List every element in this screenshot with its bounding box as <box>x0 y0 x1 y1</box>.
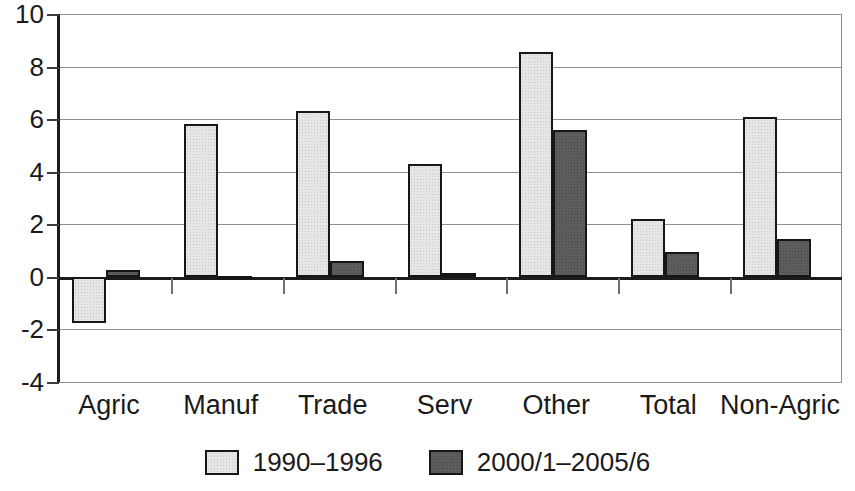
y-axis-tick <box>47 277 59 279</box>
y-axis-spine <box>57 14 60 382</box>
gridline <box>59 14 842 15</box>
zero-line <box>59 277 842 280</box>
gridline <box>59 172 842 173</box>
plot-area <box>59 14 842 382</box>
x-axis-label-serv: Serv <box>417 392 473 419</box>
y-axis-tick-label: 0 <box>0 264 44 290</box>
y-axis-tick <box>47 119 59 121</box>
bar <box>442 273 476 277</box>
y-axis-tick <box>47 14 59 16</box>
legend-item: 1990–1996 <box>205 449 383 475</box>
category-separator-tick <box>730 278 732 294</box>
y-axis-tick-label: 6 <box>0 106 44 132</box>
bar <box>665 252 699 277</box>
bar <box>408 164 442 277</box>
y-axis-tick <box>47 224 59 226</box>
x-axis-label-manuf: Manuf <box>183 392 258 419</box>
gridline <box>59 224 842 225</box>
y-axis-tick-label: 8 <box>0 54 44 80</box>
y-axis-tick <box>47 382 59 384</box>
bar <box>72 277 106 323</box>
bar <box>519 52 553 277</box>
y-axis-tick-label: 10 <box>0 1 44 27</box>
bar <box>553 130 587 277</box>
chart-legend: 1990–19962000/1–2005/6 <box>0 449 855 475</box>
legend-label: 2000/1–2005/6 <box>477 449 651 475</box>
bar-chart: 1086420-2-4 AgricManufTradeServOtherTota… <box>0 0 855 491</box>
x-axis-label-trade: Trade <box>298 392 368 419</box>
gridline <box>59 119 842 120</box>
bar <box>743 117 777 277</box>
category-separator-tick <box>171 278 173 294</box>
legend-swatch <box>429 450 463 475</box>
x-axis-label-non-agric: Non-Agric <box>720 392 840 419</box>
category-separator-tick <box>395 278 397 294</box>
bar <box>296 111 330 277</box>
legend-item: 2000/1–2005/6 <box>429 449 651 475</box>
y-axis-tick <box>47 67 59 69</box>
y-axis-tick <box>47 329 59 331</box>
legend-label: 1990–1996 <box>253 449 383 475</box>
bar <box>777 239 811 277</box>
bar <box>184 124 218 276</box>
bar <box>218 276 252 280</box>
plot-frame <box>59 14 842 382</box>
category-separator-tick <box>506 278 508 294</box>
y-axis-tick-label: 2 <box>0 211 44 237</box>
y-axis-tick <box>47 172 59 174</box>
category-separator-tick <box>283 278 285 294</box>
y-axis-tick-label: 4 <box>0 159 44 185</box>
y-axis-tick-label: -2 <box>0 316 44 342</box>
bar <box>106 270 140 277</box>
legend-swatch <box>205 450 239 475</box>
gridline <box>59 329 842 330</box>
x-axis-label-total: Total <box>640 392 697 419</box>
gridline <box>59 67 842 68</box>
bar <box>330 261 364 277</box>
category-separator-tick <box>618 278 620 294</box>
bar <box>631 219 665 277</box>
gridline <box>59 382 842 383</box>
y-axis-tick-label: -4 <box>0 369 44 395</box>
x-axis-label-other: Other <box>523 392 591 419</box>
x-axis-label-agric: Agric <box>78 392 140 419</box>
